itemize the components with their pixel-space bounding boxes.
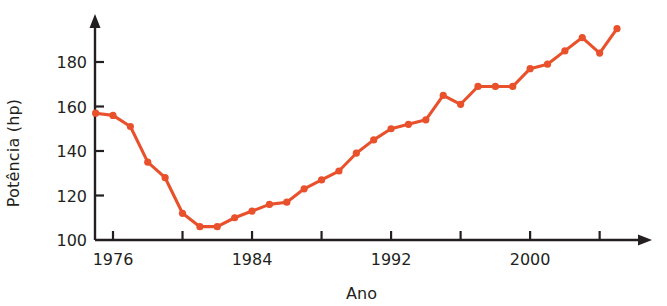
data-point — [109, 112, 116, 119]
data-point — [266, 201, 273, 208]
data-point — [353, 150, 360, 157]
chart-container: Potência (hp) Ano 1001201401601801976198… — [0, 0, 667, 306]
data-point — [561, 47, 568, 54]
y-tick-label: 160 — [56, 97, 87, 116]
data-point — [335, 167, 342, 174]
data-point — [492, 83, 499, 90]
data-point — [179, 210, 186, 217]
y-axis-arrow — [90, 14, 101, 28]
data-point — [544, 61, 551, 68]
data-point — [231, 214, 238, 221]
x-axis-title: Ano — [346, 284, 377, 303]
y-tick-label: 140 — [56, 142, 87, 161]
x-tick-label: 1984 — [232, 250, 273, 269]
data-point — [144, 159, 151, 166]
data-point — [387, 125, 394, 132]
data-point — [92, 110, 99, 117]
x-axis-title-wrap: Ano — [0, 284, 667, 303]
data-point — [370, 136, 377, 143]
data-line — [96, 29, 617, 227]
data-point — [440, 92, 447, 99]
data-point — [457, 101, 464, 108]
data-point — [248, 207, 255, 214]
data-point — [613, 25, 620, 32]
data-point — [214, 223, 221, 230]
data-point — [318, 176, 325, 183]
data-point — [283, 199, 290, 206]
data-point — [405, 121, 412, 128]
y-tick-label: 180 — [56, 53, 87, 72]
x-tick-label: 1976 — [93, 250, 134, 269]
data-point — [596, 50, 603, 57]
x-tick-label: 1992 — [371, 250, 412, 269]
data-point — [301, 185, 308, 192]
x-axis-arrow — [638, 235, 652, 246]
y-tick-label: 100 — [56, 231, 87, 250]
data-point — [527, 65, 534, 72]
data-point — [422, 116, 429, 123]
data-point — [162, 174, 169, 181]
data-point — [579, 34, 586, 41]
y-tick-label: 120 — [56, 186, 87, 205]
data-point — [474, 83, 481, 90]
x-tick-label: 2000 — [510, 250, 551, 269]
data-point — [509, 83, 516, 90]
data-point — [196, 223, 203, 230]
data-point — [127, 123, 134, 130]
